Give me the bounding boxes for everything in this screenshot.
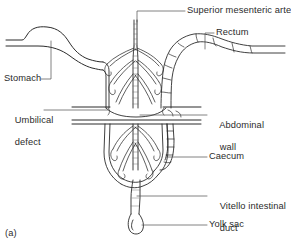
embryology-figure: Superior mesenteric artery Rectum Stomac…	[0, 0, 291, 245]
superior-mesenteric-artery-stem	[133, 20, 138, 108]
yolk-sac-outline	[128, 214, 143, 234]
mesenteric-arcades-upper	[105, 64, 164, 95]
label-umbilical-defect-line2: defect	[15, 137, 41, 147]
abdominal-wall	[72, 107, 201, 124]
duct-lumen-ticks	[131, 190, 140, 206]
label-stomach: Stomach	[4, 73, 41, 84]
hernia-sac-upper-floor	[106, 108, 166, 117]
vitello-intestinal-duct	[131, 180, 140, 214]
intra-abdominal-bowel-loop	[104, 124, 168, 188]
label-umbilical-defect: Umbilical defect	[4, 104, 53, 159]
label-superior-mesenteric-artery: Superior mesenteric artery	[187, 5, 291, 16]
label-umbilical-defect-line1: Umbilical	[15, 115, 54, 125]
label-vitello-intestinal-duct: Vitello intestinal duct	[209, 190, 286, 245]
figure-caption: (a)	[5, 228, 17, 238]
colon-rectum-outline	[161, 34, 285, 108]
proximal-bowel-limb	[103, 62, 109, 108]
umbilical-defect-rim	[108, 108, 181, 117]
label-yolk-sac: Yolk sac	[209, 219, 244, 230]
label-vitello-intestinal-duct-line1: Vitello intestinal	[220, 201, 286, 211]
mesentery-vessel-fan-upper	[107, 48, 161, 104]
label-abdominal-wall-line1: Abdominal	[219, 120, 264, 130]
label-caecum: Caecum	[209, 151, 244, 162]
stomach-outline	[6, 27, 103, 70]
leader-superior-mesenteric-artery	[137, 11, 185, 22]
mesentery-vessel-fan-lower	[113, 126, 158, 171]
label-rectum: Rectum	[216, 27, 249, 38]
